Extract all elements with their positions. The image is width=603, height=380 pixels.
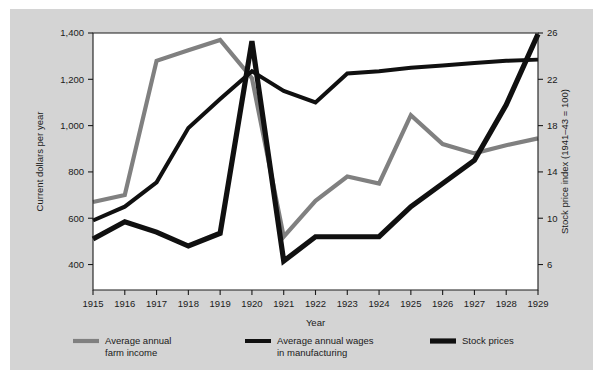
x-axis-tick-label: 1924 bbox=[369, 298, 390, 309]
x-axis-title: Year bbox=[306, 317, 325, 328]
x-axis-tick-label: 1915 bbox=[82, 298, 103, 309]
y-axis-title: Current dollars per year bbox=[34, 112, 45, 212]
x-axis-tick-label: 1925 bbox=[400, 298, 421, 309]
x-axis-tick-label: 1917 bbox=[146, 298, 167, 309]
x-axis-tick-label: 1928 bbox=[496, 298, 517, 309]
x-axis-tick-label: 1921 bbox=[273, 298, 294, 309]
y-axis-tick-label: 800 bbox=[68, 166, 84, 177]
y-axis-tick-label: 1,400 bbox=[60, 27, 84, 38]
x-axis-tick-label: 1926 bbox=[432, 298, 453, 309]
legend-label-1: Average annual wages bbox=[277, 335, 374, 346]
y-axis-tick-label: 1,000 bbox=[60, 120, 84, 131]
x-axis-tick-label: 1916 bbox=[114, 298, 135, 309]
y2-axis-tick-label: 14 bbox=[547, 166, 558, 177]
x-axis-tick-label: 1923 bbox=[337, 298, 358, 309]
y2-axis-tick-label: 10 bbox=[547, 213, 558, 224]
x-axis-tick-label: 1919 bbox=[210, 298, 231, 309]
y2-axis-tick-label: 6 bbox=[547, 259, 552, 270]
y-axis-tick-label: 600 bbox=[68, 213, 84, 224]
x-axis-tick-label: 1929 bbox=[527, 298, 548, 309]
line-chart: 4006008001,0001,2001,4006101418222619151… bbox=[10, 9, 593, 370]
y2-axis-title: Stock price index (1941–43 = 100) bbox=[559, 89, 570, 234]
y2-axis-tick-label: 18 bbox=[547, 120, 558, 131]
chart-canvas: 4006008001,0001,2001,4006101418222619151… bbox=[10, 9, 593, 370]
x-axis-tick-label: 1927 bbox=[464, 298, 485, 309]
chart-figure: 4006008001,0001,2001,4006101418222619151… bbox=[0, 0, 603, 380]
legend-label-1-line2: in manufacturing bbox=[277, 347, 347, 358]
x-axis-tick-label: 1922 bbox=[305, 298, 326, 309]
y-axis-tick-label: 400 bbox=[68, 259, 84, 270]
x-axis-tick-label: 1920 bbox=[241, 298, 262, 309]
x-axis-tick-label: 1918 bbox=[178, 298, 199, 309]
y-axis-tick-label: 1,200 bbox=[60, 74, 84, 85]
y2-axis-tick-label: 22 bbox=[547, 74, 558, 85]
legend-label-0-line2: farm income bbox=[105, 347, 157, 358]
legend-label-2: Stock prices bbox=[462, 335, 514, 346]
y2-axis-tick-label: 26 bbox=[547, 27, 558, 38]
legend-label-0: Average annual bbox=[105, 335, 171, 346]
